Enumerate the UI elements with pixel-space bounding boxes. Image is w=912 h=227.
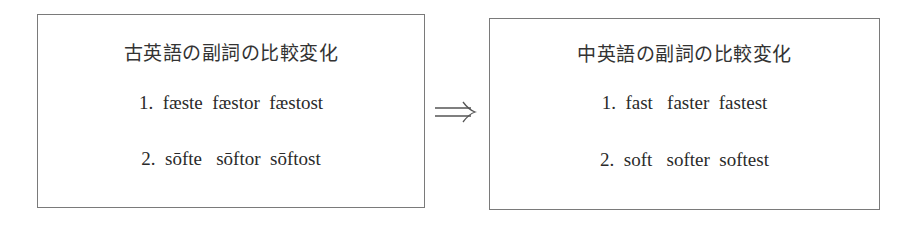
double-right-arrow-icon (433, 100, 477, 124)
old-english-row-2: 2. sōfte sōftor sōftost (38, 148, 424, 170)
old-english-row-1: 1. fæste fæstor fæstost (38, 92, 424, 114)
middle-english-box: 中英語の副詞の比較変化 1. fast faster fastest 2. so… (489, 18, 880, 210)
middle-english-row-2: 2. soft softer softest (490, 149, 879, 171)
old-english-title: 古英語の副詞の比較変化 (38, 38, 424, 65)
middle-english-row-1: 1. fast faster fastest (490, 92, 879, 114)
old-english-box: 古英語の副詞の比較変化 1. fæste fæstor fæstost 2. s… (37, 14, 425, 208)
middle-english-title: 中英語の副詞の比較変化 (490, 39, 879, 66)
